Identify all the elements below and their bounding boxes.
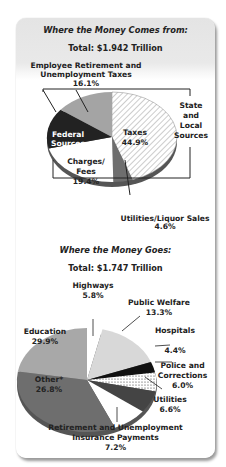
label-hospitals-pct: 4.4% xyxy=(150,346,200,356)
label-taxes: Taxes xyxy=(115,128,155,138)
income-total: Total: $1.942 Trillion xyxy=(16,43,215,53)
spending-title: Where the Money Goes: xyxy=(16,245,215,255)
label-charges-pct: 19.4% xyxy=(66,177,106,187)
label-police-pct: 6.0% xyxy=(155,381,210,391)
label-charges-line2: Fees xyxy=(66,167,106,177)
label-highways-pct: 5.8% xyxy=(70,291,116,301)
label-utilities: Utilities xyxy=(145,395,195,405)
label-highways: Highways xyxy=(70,281,116,291)
label-education: Education xyxy=(20,327,70,337)
label-retire-line2: Insurance Payments xyxy=(16,433,215,443)
label-state-line3: Local xyxy=(175,121,207,131)
label-state-line4: Sources xyxy=(172,131,210,141)
label-other-pct: 26.8% xyxy=(24,385,74,395)
label-state-line2: and xyxy=(175,111,207,121)
label-hospitals: Hospitals xyxy=(150,326,200,336)
label-charges-line1: Charges/ xyxy=(66,157,106,167)
label-welfare: Public Welfare xyxy=(124,298,194,308)
spending-total: Total: $1.747 Trillion xyxy=(16,263,215,273)
label-education-pct: 29.9% xyxy=(20,337,70,347)
label-taxes-pct: 44.9% xyxy=(115,138,155,148)
income-title: Where the Money Comes from: xyxy=(16,25,215,35)
label-utilities-pct: 6.6% xyxy=(145,405,195,415)
label-retire-line1: Retirement and Unemployment xyxy=(16,423,215,433)
label-welfare-pct: 13.3% xyxy=(124,308,194,318)
label-retire-pct: 7.2% xyxy=(16,443,215,453)
label-ert-pct: 16.1% xyxy=(16,79,156,89)
label-util-liquor-pct: 4.6% xyxy=(110,222,220,232)
label-state-line1: State xyxy=(175,101,207,111)
label-police-line2: Corrections xyxy=(155,371,210,381)
label-police-line1: Police and xyxy=(155,361,210,371)
label-other: Other* xyxy=(24,375,74,385)
